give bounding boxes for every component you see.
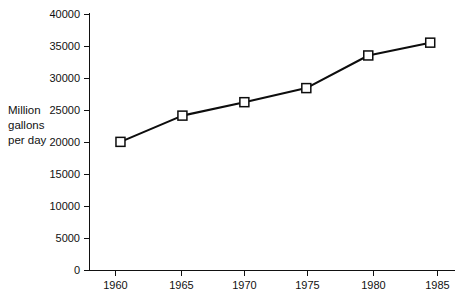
y-tick-label-5000: 5000: [56, 232, 80, 244]
x-tick-label-1985: 1985: [425, 279, 449, 291]
chart-screenshot: Million gallons per day: [0, 0, 458, 296]
y-axis-tick-labels: 0 5000 10000 15000 20000 25000 30000 350…: [49, 8, 80, 276]
y-tick-label-40000: 40000: [49, 8, 80, 20]
y-tick-label-10000: 10000: [49, 200, 80, 212]
y-axis-caption: Million gallons per day: [8, 104, 47, 146]
line-chart-figure: Million gallons per day: [0, 0, 458, 296]
y-axis-caption-line-2: gallons: [8, 119, 45, 131]
x-axis-tick-labels: 1960 1965 1970 1975 1980 1985: [103, 279, 449, 291]
data-point-marker-1965: [178, 111, 187, 120]
x-axis-ticks: [116, 271, 438, 277]
y-tick-label-0: 0: [74, 264, 80, 276]
data-point-marker-1980: [364, 51, 373, 60]
data-point-marker-1985: [426, 38, 435, 47]
x-tick-label-1965: 1965: [169, 279, 193, 291]
data-series-line: [120, 43, 430, 142]
x-tick-label-1970: 1970: [232, 279, 256, 291]
y-axis-ticks: [84, 15, 90, 271]
x-tick-label-1975: 1975: [295, 279, 319, 291]
y-tick-label-30000: 30000: [49, 72, 80, 84]
x-tick-label-1980: 1980: [361, 279, 385, 291]
y-axis-caption-line-3: per day: [8, 134, 47, 146]
data-point-markers: [116, 38, 435, 146]
y-tick-label-35000: 35000: [49, 40, 80, 52]
y-axis-caption-line-1: Million: [8, 104, 41, 116]
data-point-marker-1960: [116, 137, 125, 146]
y-tick-label-25000: 25000: [49, 104, 80, 116]
chart-canvas: Million gallons per day: [0, 0, 458, 296]
y-tick-label-15000: 15000: [49, 168, 80, 180]
y-tick-label-20000: 20000: [49, 136, 80, 148]
x-tick-label-1960: 1960: [103, 279, 127, 291]
data-point-marker-1970: [240, 98, 249, 107]
data-point-marker-1975: [302, 84, 311, 93]
